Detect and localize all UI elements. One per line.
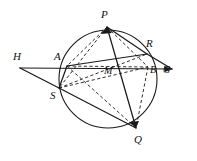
point-label-R: R (146, 38, 153, 49)
segment-B-Q (136, 67, 148, 128)
point-label-Q: Q (134, 134, 142, 145)
point-label-B: B (150, 65, 156, 75)
segment-P-Q (107, 27, 136, 128)
point-label-A: A (54, 51, 61, 62)
segment-H-S (20, 68, 59, 88)
segment-P-S (59, 27, 107, 88)
point-label-S: S (50, 90, 56, 101)
geometry-canvas (0, 0, 197, 161)
point-label-P: P (101, 9, 108, 20)
point-label-G: G (163, 65, 170, 75)
point-label-H: H (13, 51, 21, 62)
point-label-M: M (104, 66, 112, 76)
segment-P-A (67, 27, 107, 66)
geometry-figure: P R B A S Q M H G (0, 0, 197, 161)
